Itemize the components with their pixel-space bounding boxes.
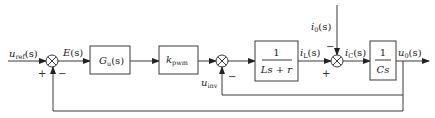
capacitor-block: 1 Cs bbox=[370, 41, 396, 80]
error-signal-label: E(s) bbox=[62, 47, 83, 58]
sum3-plus-sign: + bbox=[322, 68, 330, 79]
sum1-plus-sign: + bbox=[38, 68, 46, 79]
inductor-current-label: iL(s) bbox=[300, 47, 321, 60]
svg-text:1: 1 bbox=[273, 47, 279, 58]
sum3-minus-sign: − bbox=[326, 41, 334, 52]
summing-junction-1 bbox=[46, 55, 58, 67]
svg-text:Cs: Cs bbox=[377, 64, 390, 75]
block-diagram: uref(s) + − E(s) Gu(s) kpwm − uinv bbox=[0, 0, 435, 118]
output-signal-label: u0(s) bbox=[398, 47, 422, 60]
inductor-block: 1 Ls + r bbox=[255, 41, 298, 81]
controller-block: Gu(s) bbox=[90, 46, 130, 74]
input-signal-label: uref(s) bbox=[9, 48, 38, 61]
sum1-minus-sign: − bbox=[58, 68, 66, 79]
capacitor-current-label: iC(s) bbox=[345, 47, 366, 60]
load-current-label: i0(s) bbox=[311, 21, 331, 34]
svg-text:1: 1 bbox=[380, 47, 386, 58]
summing-junction-3 bbox=[331, 55, 343, 67]
sum2-minus-sign: − bbox=[228, 71, 236, 82]
pwm-gain-block: kpwm bbox=[159, 46, 198, 74]
summing-junction-2 bbox=[216, 55, 228, 67]
inverter-signal-label: uinv bbox=[201, 77, 218, 90]
svg-text:Ls + r: Ls + r bbox=[260, 64, 294, 75]
